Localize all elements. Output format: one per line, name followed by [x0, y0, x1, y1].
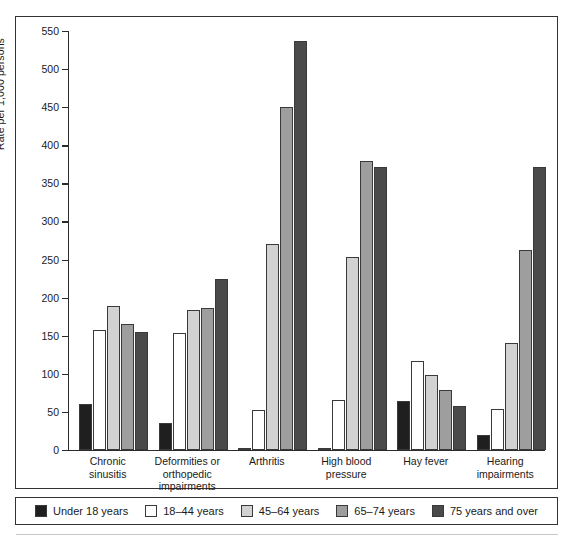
legend-swatch	[145, 505, 157, 517]
plot-area: 050100150200250300350400450500550 Chroni…	[68, 31, 545, 450]
y-tick-label: 450	[41, 102, 59, 113]
legend-item[interactable]: Under 18 years	[35, 505, 128, 517]
bar	[374, 167, 387, 450]
y-tick-label: 200	[41, 292, 59, 303]
y-tick	[62, 221, 68, 222]
bar	[266, 244, 279, 450]
legend-item[interactable]: 65–74 years	[336, 505, 415, 517]
bar	[477, 435, 490, 450]
legend-swatch	[35, 505, 47, 517]
bar	[135, 332, 148, 450]
y-tick-label: 400	[41, 140, 59, 151]
y-tick	[62, 298, 68, 299]
x-axis-label: Chronicsinusitis	[62, 455, 154, 480]
bar	[187, 310, 200, 450]
legend: Under 18 years18–44 years45–64 years65–7…	[15, 497, 558, 525]
bar	[280, 107, 293, 450]
bar	[411, 361, 424, 450]
legend-item[interactable]: 45–64 years	[241, 505, 320, 517]
y-tick	[62, 69, 68, 70]
legend-label: Under 18 years	[53, 505, 128, 517]
bar-group	[79, 31, 148, 450]
y-tick	[62, 412, 68, 413]
y-tick-label: 300	[41, 216, 59, 227]
bar	[505, 343, 518, 450]
x-axis-label-line: Hay fever	[380, 455, 472, 468]
bar	[252, 410, 265, 450]
y-tick-label: 500	[41, 64, 59, 75]
y-tick-label: 250	[41, 254, 59, 265]
y-tick	[62, 145, 68, 146]
x-axis-label: Hearingimpairments	[460, 455, 552, 480]
x-axis-label-line: High blood	[301, 455, 393, 468]
bar	[519, 250, 532, 450]
y-tick-label: 550	[41, 26, 59, 37]
bar	[173, 333, 186, 450]
x-axis-label-line: impairments	[460, 468, 552, 481]
y-tick	[62, 183, 68, 184]
y-tick	[62, 374, 68, 375]
legend-item[interactable]: 75 years and over	[432, 505, 538, 517]
legend-swatch	[432, 505, 444, 517]
footer-rule	[16, 534, 558, 535]
bar-group	[318, 31, 387, 450]
bar	[294, 41, 307, 450]
x-axis-label-line: Arthritis	[221, 455, 313, 468]
y-axis-line	[68, 31, 69, 450]
bar	[439, 390, 452, 450]
bar	[238, 448, 251, 450]
bar	[93, 330, 106, 450]
y-tick	[62, 336, 68, 337]
x-axis-label: Hay fever	[380, 455, 472, 468]
legend-item[interactable]: 18–44 years	[145, 505, 224, 517]
x-axis-label-line: impairments	[142, 480, 234, 493]
x-axis-label-line: Chronic	[62, 455, 154, 468]
bar	[533, 167, 546, 450]
legend-swatch	[336, 505, 348, 517]
y-tick	[62, 107, 68, 108]
bar	[453, 406, 466, 450]
legend-label: 65–74 years	[354, 505, 415, 517]
y-tick-label: 350	[41, 178, 59, 189]
x-axis-label-line: pressure	[301, 468, 393, 481]
bar	[107, 306, 120, 450]
bar	[318, 448, 331, 450]
y-axis-title: Rate per 1,000 persons	[0, 0, 6, 150]
y-tick-label: 50	[47, 407, 59, 418]
bar	[159, 423, 172, 450]
bar	[79, 404, 92, 450]
bar	[346, 257, 359, 451]
x-axis-label-line: Hearing	[460, 455, 552, 468]
y-tick-label: 100	[41, 369, 59, 380]
bar	[121, 324, 134, 450]
bar	[215, 279, 228, 450]
bar-group	[238, 31, 307, 450]
y-tick	[62, 31, 68, 32]
x-axis-label: Deformities ororthopedicimpairments	[142, 455, 234, 493]
bar	[360, 161, 373, 450]
chart-root: Rate per 1,000 persons 05010015020025030…	[0, 0, 574, 539]
x-axis-label-line: orthopedic	[142, 468, 234, 481]
bar	[491, 409, 504, 450]
legend-label: 18–44 years	[163, 505, 224, 517]
bar	[425, 375, 438, 450]
bar-group	[477, 31, 546, 450]
x-axis-label-line: Deformities or	[142, 455, 234, 468]
bar	[201, 308, 214, 450]
bar	[397, 401, 410, 450]
x-axis-label: High bloodpressure	[301, 455, 393, 480]
bar-group	[397, 31, 466, 450]
legend-swatch	[241, 505, 253, 517]
x-axis-label-line: sinusitis	[62, 468, 154, 481]
x-axis-line	[68, 450, 545, 451]
y-tick	[62, 260, 68, 261]
bar-group	[159, 31, 228, 450]
legend-label: 45–64 years	[259, 505, 320, 517]
legend-label: 75 years and over	[450, 505, 538, 517]
bar	[332, 400, 345, 450]
x-axis-label: Arthritis	[221, 455, 313, 468]
y-tick-label: 150	[41, 330, 59, 341]
y-tick-label: 0	[53, 445, 59, 456]
y-tick	[62, 450, 68, 451]
